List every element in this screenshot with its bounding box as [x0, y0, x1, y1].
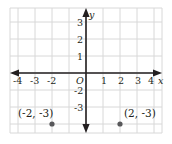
- coordinate-plane-figure: -4 -3 -2 1 2 3 4 3 2 1 -2 -3 O x y (-2, …: [0, 0, 172, 144]
- point-marker: [117, 121, 122, 126]
- x-tick-label: 3: [135, 76, 141, 86]
- y-tick-label: 3: [77, 18, 83, 28]
- y-axis: [82, 8, 89, 133]
- origin-label: O: [76, 76, 84, 86]
- point-label: (-2, -3): [18, 108, 53, 119]
- x-tick-label: 2: [118, 76, 124, 86]
- y-tick-label: -3: [74, 103, 83, 113]
- x-axis-label: x: [158, 76, 163, 86]
- y-tick-label: -2: [74, 86, 83, 96]
- y-axis-label: y: [89, 10, 94, 20]
- x-tick-label: 1: [101, 76, 107, 86]
- y-axis-arrow-down: [82, 124, 89, 133]
- point-marker: [49, 121, 54, 126]
- x-tick-label: -2: [47, 76, 56, 86]
- coordinate-plane-svg: [0, 0, 172, 144]
- x-tick-label: 4: [148, 76, 154, 86]
- point-label: (2, -3): [124, 108, 156, 119]
- x-tick-label: -3: [30, 76, 39, 86]
- x-tick-label: -4: [13, 76, 22, 86]
- y-tick-label: 1: [77, 52, 83, 62]
- y-tick-label: 2: [77, 35, 83, 45]
